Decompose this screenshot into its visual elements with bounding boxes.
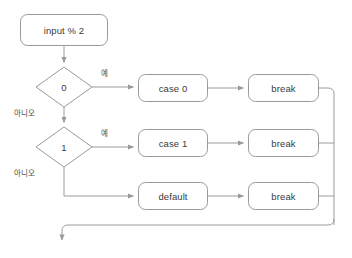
edge-label-yes-1: 예 bbox=[101, 130, 108, 138]
flowchart-canvas: input % 2 0 1 case 0 case 1 default brea… bbox=[0, 0, 352, 258]
decision-1-shape bbox=[36, 127, 92, 167]
break-2-shape bbox=[249, 183, 319, 210]
break-1-shape bbox=[249, 130, 319, 157]
case-1-shape bbox=[139, 130, 208, 157]
edge-label-no-0: 아니오 bbox=[14, 110, 35, 118]
edge-label-yes-0: 예 bbox=[101, 70, 108, 78]
case-0-shape bbox=[139, 75, 208, 102]
edge-return-path bbox=[62, 219, 334, 240]
edge-decision-1-to-default bbox=[64, 167, 134, 196]
edge-label-no-1: 아니오 bbox=[14, 170, 35, 178]
start-box-shape bbox=[21, 15, 108, 46]
edge-break-0-to-rail bbox=[319, 88, 335, 225]
default-shape bbox=[139, 183, 208, 210]
flowchart-graphics bbox=[0, 0, 352, 258]
decision-0-shape bbox=[36, 67, 92, 107]
break-0-shape bbox=[249, 75, 319, 102]
